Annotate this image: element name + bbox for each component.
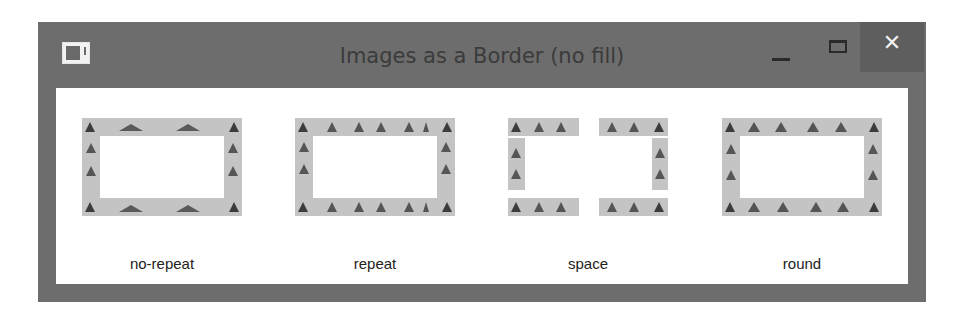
border-right-segment [652, 138, 668, 190]
side-triangle-icon [511, 169, 521, 179]
repeated-triangle-icon [423, 122, 429, 132]
border-frame-space [508, 118, 668, 216]
side-triangle-icon [228, 166, 238, 176]
corner-triangle-icon [85, 202, 95, 212]
border-top [82, 118, 242, 136]
stretched-triangle-icon [176, 205, 200, 212]
stretched-triangle-icon [119, 124, 143, 131]
stretched-triangle-icon [119, 205, 143, 212]
corner-triangle-icon [511, 122, 521, 132]
side-triangle-icon [868, 144, 878, 154]
corner-triangle-icon [442, 202, 452, 212]
spaced-triangle-icon [534, 122, 544, 132]
side-triangle-icon [441, 164, 451, 174]
demo-label: round [702, 255, 902, 272]
title-bar[interactable]: Images as a Border (no fill) ✕ [38, 22, 926, 88]
side-triangle-icon [228, 143, 238, 153]
spaced-triangle-icon [534, 202, 544, 212]
corner-triangle-icon [869, 202, 879, 212]
border-frame-no-repeat [82, 118, 242, 216]
minimize-icon [772, 58, 790, 61]
border-bottom [722, 198, 882, 216]
side-triangle-icon [726, 144, 736, 154]
corner-triangle-icon [511, 202, 521, 212]
close-icon: ✕ [860, 30, 924, 55]
client-area: no-repeat [56, 88, 908, 284]
repeated-triangle-icon [354, 122, 364, 132]
corner-triangle-icon [298, 202, 308, 212]
rounded-triangle-icon [835, 122, 847, 132]
demo-space: space [482, 88, 682, 284]
corner-triangle-icon [442, 122, 452, 132]
repeated-triangle-icon [376, 122, 386, 132]
border-frame-repeat [295, 118, 455, 216]
corner-triangle-icon [869, 122, 879, 132]
side-triangle-icon [868, 170, 878, 180]
rounded-triangle-icon [777, 202, 789, 212]
spaced-triangle-icon [556, 202, 566, 212]
side-triangle-icon [299, 164, 309, 174]
demo-no-repeat: no-repeat [56, 88, 256, 284]
side-triangle-icon [299, 142, 309, 152]
corner-triangle-icon [725, 202, 735, 212]
demo-label: no-repeat [62, 255, 262, 272]
demo-label: space [488, 255, 688, 272]
side-triangle-icon [86, 166, 96, 176]
repeated-triangle-icon [327, 202, 337, 212]
side-triangle-icon [86, 143, 96, 153]
stretched-triangle-icon [176, 124, 200, 131]
rounded-triangle-icon [775, 122, 787, 132]
repeated-triangle-icon [404, 202, 414, 212]
repeated-triangle-icon [376, 202, 386, 212]
rounded-triangle-icon [807, 122, 819, 132]
side-triangle-icon [511, 148, 521, 158]
side-triangle-icon [726, 170, 736, 180]
border-bottom [295, 198, 455, 216]
spaced-triangle-icon [629, 202, 639, 212]
repeated-triangle-icon [423, 202, 429, 212]
spaced-triangle-icon [607, 122, 617, 132]
demo-round: round [696, 88, 896, 284]
spaced-triangle-icon [629, 122, 639, 132]
corner-triangle-icon [298, 122, 308, 132]
corner-triangle-icon [725, 122, 735, 132]
rounded-triangle-icon [810, 202, 822, 212]
minimize-button[interactable] [758, 30, 808, 74]
repeated-triangle-icon [354, 202, 364, 212]
corner-triangle-icon [229, 202, 239, 212]
rounded-triangle-icon [837, 202, 849, 212]
repeated-triangle-icon [327, 122, 337, 132]
maximize-icon [829, 40, 847, 53]
demo-repeat: repeat [269, 88, 469, 284]
corner-triangle-icon [85, 122, 95, 132]
app-window: Images as a Border (no fill) ✕ [38, 22, 926, 302]
rounded-triangle-icon [748, 202, 760, 212]
rounded-triangle-icon [748, 122, 760, 132]
spaced-triangle-icon [556, 122, 566, 132]
repeated-triangle-icon [404, 122, 414, 132]
border-frame-round [722, 118, 882, 216]
close-button[interactable]: ✕ [860, 22, 924, 72]
spaced-triangle-icon [607, 202, 617, 212]
side-triangle-icon [441, 142, 451, 152]
corner-triangle-icon [229, 122, 239, 132]
corner-triangle-icon [654, 122, 664, 132]
side-triangle-icon [655, 148, 665, 158]
side-triangle-icon [655, 169, 665, 179]
corner-triangle-icon [654, 202, 664, 212]
border-top [295, 118, 455, 136]
border-bottom [82, 198, 242, 216]
demo-label: repeat [275, 255, 475, 272]
border-left-segment [508, 138, 525, 190]
border-top [722, 118, 882, 136]
